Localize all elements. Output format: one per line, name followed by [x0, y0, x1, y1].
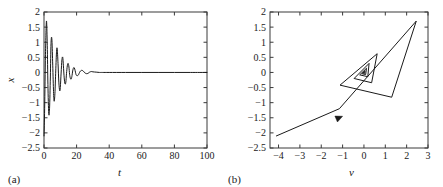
x-tick-label: −2 — [316, 150, 327, 161]
y-tick-label: −2 — [255, 127, 266, 138]
x-tick-label: 40 — [104, 150, 114, 161]
panel-b-x-axis-label: v — [349, 166, 354, 178]
panel-b: −4−3−2−1012321.510.50−0.5−1−1.5−2−2.5 x … — [222, 0, 443, 187]
y-tick-label: 2 — [261, 6, 266, 17]
y-tick-label: −2.5 — [248, 142, 266, 153]
y-tick-label: −2 — [29, 127, 40, 138]
time-series-curve — [44, 21, 207, 136]
plot-frame — [44, 12, 207, 148]
y-tick-label: 1 — [35, 37, 40, 48]
y-tick-label: −0.5 — [22, 82, 40, 93]
x-tick-label: 3 — [426, 150, 431, 161]
y-tick-label: −1.5 — [22, 112, 40, 123]
y-tick-label: −1.5 — [248, 112, 266, 123]
x-tick-label: −1 — [337, 150, 348, 161]
panel-a-y-axis-label: x — [4, 74, 16, 86]
x-tick-label: 60 — [137, 150, 147, 161]
phase-trajectory — [276, 21, 416, 136]
y-tick-label: 0.5 — [28, 52, 41, 63]
y-tick-label: 1.5 — [28, 22, 41, 33]
y-tick-label: 0 — [261, 67, 266, 78]
x-tick-label: −3 — [295, 150, 306, 161]
y-tick-label: 1.5 — [254, 22, 267, 33]
panel-a-caption: (a) — [8, 173, 20, 185]
x-tick-label: 0 — [361, 150, 366, 161]
x-tick-label: 0 — [42, 150, 47, 161]
y-tick-label: −0.5 — [248, 82, 266, 93]
y-tick-label: 2 — [35, 6, 40, 17]
panel-a: 02040608010021.510.50−0.5−1−1.5−2−2.5 x … — [0, 0, 222, 187]
x-tick-label: 1 — [383, 150, 388, 161]
y-tick-label: 0 — [35, 67, 40, 78]
x-tick-label: 20 — [72, 150, 82, 161]
panel-b-caption: (b) — [228, 173, 241, 185]
y-tick-label: −1 — [29, 97, 40, 108]
y-tick-label: 1 — [261, 37, 266, 48]
y-tick-label: −2.5 — [22, 142, 40, 153]
x-tick-label: 2 — [404, 150, 409, 161]
x-tick-label: 80 — [169, 150, 179, 161]
direction-arrow-icon — [335, 116, 343, 122]
plot-a-canvas: 02040608010021.510.50−0.5−1−1.5−2−2.5 — [0, 0, 222, 187]
x-tick-label: −4 — [273, 150, 284, 161]
plot-b-canvas: −4−3−2−1012321.510.50−0.5−1−1.5−2−2.5 — [222, 0, 443, 187]
y-tick-label: 0.5 — [254, 52, 267, 63]
x-tick-label: 100 — [200, 150, 215, 161]
y-tick-label: −1 — [255, 97, 266, 108]
panel-a-x-axis-label: t — [118, 166, 121, 178]
figure-container: 02040608010021.510.50−0.5−1−1.5−2−2.5 x … — [0, 0, 443, 187]
plot-frame — [270, 12, 428, 148]
